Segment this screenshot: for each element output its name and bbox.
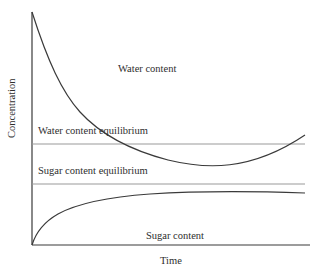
x-axis-label: Time <box>160 256 182 267</box>
sugar-content-curve-label: Sugar content <box>146 231 204 242</box>
water-content-curve <box>32 12 305 166</box>
concentration-vs-time-chart: Water content Water content equilibrium … <box>0 0 335 275</box>
sugar-equilibrium-label: Sugar content equilibrium <box>38 166 148 177</box>
water-equilibrium-label: Water content equilibrium <box>38 126 148 137</box>
y-axis-label: Concentration <box>7 68 18 148</box>
water-content-curve-label: Water content <box>118 64 176 75</box>
